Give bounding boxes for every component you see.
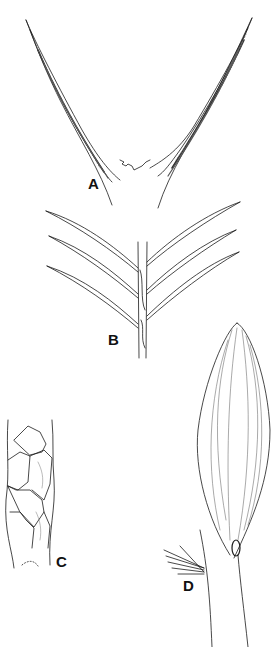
panel-label-c: C	[56, 554, 67, 569]
botanical-illustration	[0, 0, 276, 647]
panel-label-d: D	[183, 578, 194, 593]
panel-a-drawing	[26, 18, 252, 208]
panel-label-b: B	[108, 332, 119, 347]
panel-label-a: A	[88, 176, 99, 191]
panel-d-drawing	[164, 323, 270, 647]
panel-c-drawing	[6, 420, 55, 568]
panel-b-drawing	[46, 202, 240, 358]
botanical-plate: A B C D	[0, 0, 276, 647]
